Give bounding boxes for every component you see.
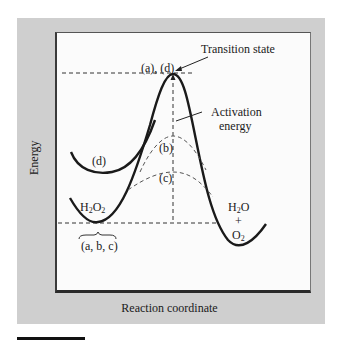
reactant-sub2: 2 [101,206,105,215]
energy-curves [0,0,339,340]
product-h: H [228,200,237,214]
product-o: O [241,200,250,214]
product-o2-sub: 2 [241,234,245,243]
activation-label-line2: energy [219,120,251,132]
peak-label: (a), (d) [141,62,174,74]
reactant-brace-icon [79,232,116,239]
transition-state-label: Transition state [201,43,275,55]
product-o2-label: O2 [232,229,245,243]
transition-state-pointer [177,57,208,70]
curve-d-label: (d) [92,155,106,167]
x-axis-label: Reaction coordinate [0,301,339,316]
curve-c-label: (c) [159,172,172,184]
product-h2o-label: H2O [228,201,249,215]
transition-arrow-icon [175,66,182,71]
reactant-group-label: (a, b, c) [81,240,118,252]
curve-b-label: (b) [159,142,173,154]
activation-label-line1: Activation [211,106,262,118]
product-o2-o: O [232,228,241,242]
y-axis-label: Energy [27,141,42,175]
product-plus: + [235,215,242,227]
reactant-h: H [80,200,89,214]
reactant-label: H2O2 [80,201,105,215]
activation-pointer [176,112,202,121]
